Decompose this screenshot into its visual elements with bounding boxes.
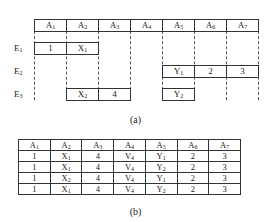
table-cell: X1 — [50, 184, 82, 195]
table-cell: V4 — [114, 184, 146, 195]
table-cell: Y1 — [145, 173, 177, 184]
table-cell: 3 — [209, 151, 241, 162]
entity-value-cell: 3 — [226, 65, 259, 78]
table-cell: 2 — [177, 151, 209, 162]
column-header: A6 — [177, 140, 209, 151]
table-cell: 3 — [209, 162, 241, 173]
table-cell: Y2 — [145, 184, 177, 195]
table-body: 1X14V4Y1231X14V4Y2231X24V4Y1231X14V4Y223 — [19, 151, 241, 195]
table-cell: V4 — [114, 151, 146, 162]
entity-value-cell: 1 — [34, 42, 67, 55]
entity-value-cell: Y1 — [162, 65, 195, 78]
table-cell: 3 — [209, 184, 241, 195]
table-cell: 4 — [82, 151, 114, 162]
table-cell: X2 — [50, 173, 82, 184]
attribute-header-cell: A4 — [130, 19, 163, 32]
table-row: 1X24V4Y123 — [19, 173, 241, 184]
table-cell: 2 — [177, 173, 209, 184]
entity-label: E2 — [14, 66, 23, 76]
column-header: A7 — [209, 140, 241, 151]
table-cell: Y1 — [145, 151, 177, 162]
table-cell: V4 — [114, 173, 146, 184]
entity-value-cell: X2 — [66, 88, 99, 101]
column-header: A5 — [145, 140, 177, 151]
entity-label: E1 — [14, 43, 23, 53]
table-cell: 4 — [82, 184, 114, 195]
table-row: 1X14V4Y123 — [19, 151, 241, 162]
table-cell: 3 — [209, 173, 241, 184]
table-cell: 2 — [177, 184, 209, 195]
table-cell: V4 — [114, 162, 146, 173]
attribute-header-cell: A2 — [66, 19, 99, 32]
caption-b: (b) — [0, 206, 271, 217]
attribute-header-cell: A7 — [226, 19, 259, 32]
entity-value-cell: Y2 — [162, 88, 195, 101]
attribute-header-cell: A1 — [34, 19, 67, 32]
table-cell: X1 — [50, 151, 82, 162]
caption-a: (a) — [0, 114, 271, 125]
column-header: A1 — [19, 140, 51, 151]
table-cell: 4 — [82, 173, 114, 184]
table-header-row: A1A2A3A4A5A6A7 — [19, 140, 241, 151]
table-cell: 1 — [19, 162, 51, 173]
joined-relation-table: A1A2A3A4A5A6A7 1X14V4Y1231X14V4Y2231X24V… — [18, 139, 241, 195]
table-cell: 2 — [177, 162, 209, 173]
table-cell: 1 — [19, 184, 51, 195]
entity-value-cell: X1 — [66, 42, 99, 55]
table-row: 1X14V4Y223 — [19, 184, 241, 195]
table-cell: Y2 — [145, 162, 177, 173]
attribute-header-cell: A6 — [194, 19, 227, 32]
table-cell: 1 — [19, 151, 51, 162]
entity-value-cell: 2 — [194, 65, 227, 78]
column-header: A3 — [82, 140, 114, 151]
table-row: 1X14V4Y223 — [19, 162, 241, 173]
entity-value-cell: 4 — [98, 88, 131, 101]
table-cell: X1 — [50, 162, 82, 173]
table-cell: 4 — [82, 162, 114, 173]
table-cell: 1 — [19, 173, 51, 184]
attribute-header-cell: A3 — [98, 19, 131, 32]
entity-label: E3 — [14, 89, 23, 99]
column-header: A2 — [50, 140, 82, 151]
attribute-header-cell: A5 — [162, 19, 195, 32]
column-header: A4 — [114, 140, 146, 151]
